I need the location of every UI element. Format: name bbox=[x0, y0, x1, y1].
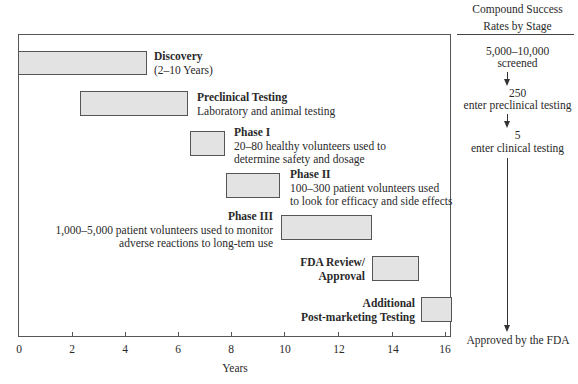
label-fda-title2: Approval bbox=[300, 270, 365, 284]
label-post-title2: Post-marketing Testing bbox=[301, 311, 415, 325]
side-step-screened-label: screened bbox=[462, 57, 573, 71]
bar-phase-2 bbox=[226, 173, 280, 198]
label-phase-3-desc1: 1,000–5,000 patient volunteers used to m… bbox=[55, 224, 273, 238]
x-tick-label-10: 10 bbox=[275, 343, 295, 355]
label-phase-1-desc2: determine safety and dosage bbox=[234, 153, 386, 167]
label-discovery-title: Discovery bbox=[154, 50, 213, 64]
arrow-3-head-icon bbox=[504, 325, 510, 332]
side-step-approved-label: Approved by the FDA bbox=[458, 334, 578, 348]
x-tick-label-0: 0 bbox=[9, 343, 29, 355]
x-tick-label-2: 2 bbox=[62, 343, 82, 355]
label-fda-title1: FDA Review/ bbox=[300, 256, 365, 270]
label-discovery-desc: (2–10 Years) bbox=[154, 64, 213, 76]
label-preclinical: Preclinical Testing Laboratory and anima… bbox=[197, 91, 335, 118]
side-step-clinical-count: 5 bbox=[462, 129, 573, 143]
label-preclinical-desc: Laboratory and animal testing bbox=[197, 105, 335, 117]
x-tick-4 bbox=[125, 332, 126, 337]
label-post-title1: Additional bbox=[301, 297, 415, 311]
label-preclinical-title: Preclinical Testing bbox=[197, 91, 335, 105]
x-tick-label-14: 14 bbox=[383, 343, 403, 355]
bar-phase-3 bbox=[281, 215, 372, 240]
bar-discovery bbox=[18, 51, 147, 75]
side-step-clinical-label: enter clinical testing bbox=[462, 142, 573, 156]
x-tick-2 bbox=[72, 332, 73, 337]
label-fda-review: FDA Review/ Approval bbox=[300, 256, 365, 283]
label-phase-1: Phase I 20–80 healthy volunteers used to… bbox=[234, 126, 386, 167]
side-panel-title-1: Compound Success bbox=[462, 3, 573, 17]
x-tick-12 bbox=[338, 332, 339, 337]
arrow-3-line bbox=[507, 158, 508, 327]
x-tick-label-6: 6 bbox=[168, 343, 188, 355]
arrow-2-head-icon bbox=[504, 121, 510, 128]
label-phase-3-title: Phase III bbox=[55, 210, 273, 224]
x-tick-6 bbox=[178, 332, 179, 337]
label-phase-3-desc2: adverse reactions to long-tem use bbox=[55, 237, 273, 251]
arrow-1-head-icon bbox=[504, 79, 510, 86]
bar-preclinical bbox=[80, 91, 188, 116]
side-panel-title-2: Rates by Stage bbox=[462, 20, 573, 34]
label-post-marketing: Additional Post-marketing Testing bbox=[301, 297, 415, 324]
side-panel-divider bbox=[457, 34, 574, 35]
x-tick-label-8: 8 bbox=[221, 343, 241, 355]
bar-post-marketing bbox=[421, 297, 452, 322]
label-phase-2-desc2: to look for efficacy and side effects bbox=[290, 195, 452, 209]
label-discovery: Discovery (2–10 Years) bbox=[154, 50, 213, 77]
x-axis-label: Years bbox=[220, 362, 250, 374]
x-tick-label-16: 16 bbox=[435, 343, 455, 355]
x-tick-8 bbox=[231, 332, 232, 337]
x-tick-10 bbox=[284, 332, 285, 337]
bar-fda-review bbox=[372, 256, 419, 281]
x-tick-label-4: 4 bbox=[115, 343, 135, 355]
label-phase-1-desc1: 20–80 healthy volunteers used to bbox=[234, 140, 386, 154]
label-phase-2: Phase II 100–300 patient volunteers used… bbox=[290, 168, 452, 209]
label-phase-2-desc1: 100–300 patient volunteers used bbox=[290, 182, 452, 196]
label-phase-3: Phase III 1,000–5,000 patient volunteers… bbox=[55, 210, 273, 251]
bar-phase-1 bbox=[190, 131, 225, 156]
x-tick-label-12: 12 bbox=[329, 343, 349, 355]
label-phase-1-title: Phase I bbox=[234, 126, 386, 140]
x-tick-16 bbox=[445, 332, 446, 337]
label-phase-2-title: Phase II bbox=[290, 168, 452, 182]
x-tick-14 bbox=[392, 332, 393, 337]
side-step-preclinical-label: enter preclinical testing bbox=[462, 99, 573, 113]
